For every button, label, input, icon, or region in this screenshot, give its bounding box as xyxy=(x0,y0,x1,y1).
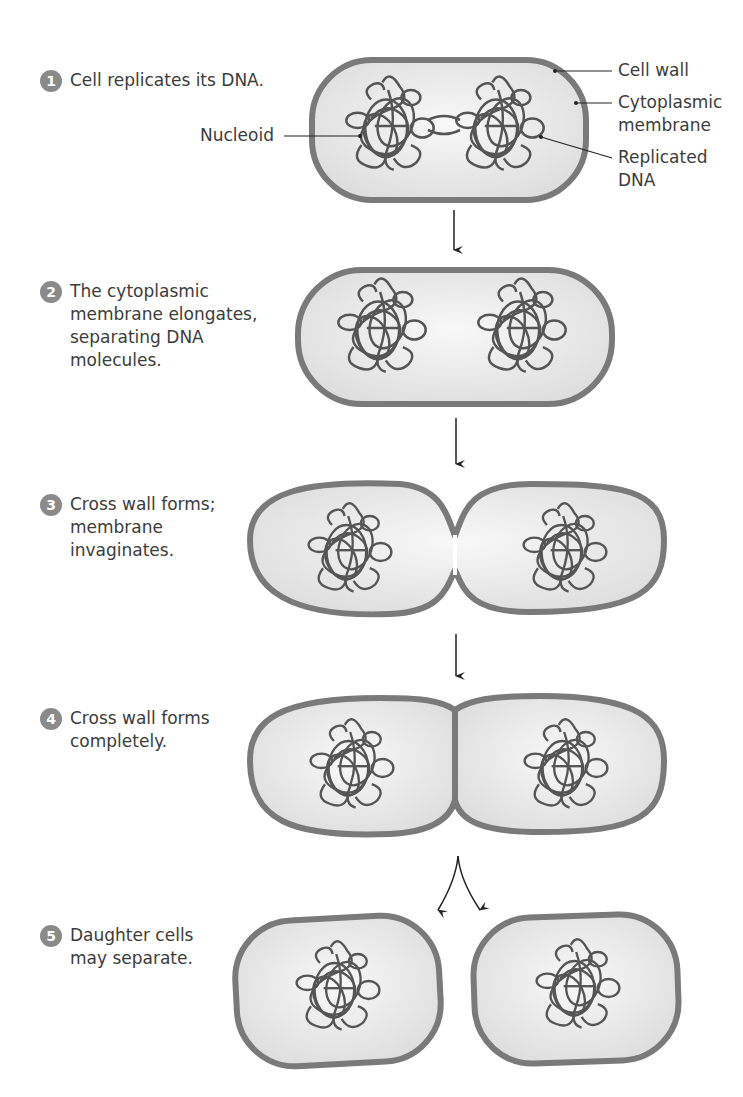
step-4: 4 Cross wall forms completely. xyxy=(40,707,210,753)
step-5: 5 Daughter cells may separate. xyxy=(40,924,193,970)
cell-step-3 xyxy=(250,483,664,614)
step-number-badge: 4 xyxy=(40,708,62,730)
step-description: Cell replicates its DNA. xyxy=(70,69,264,92)
cell-step-4 xyxy=(250,696,664,835)
step-2: 2 The cytoplasmic membrane elongates, se… xyxy=(40,280,257,372)
step-number-badge: 5 xyxy=(40,925,62,947)
label-cell-wall: Cell wall xyxy=(618,59,689,82)
step-description: Daughter cells may separate. xyxy=(70,924,193,970)
label-replicated-dna: Replicated DNA xyxy=(618,146,707,192)
step-description: Cross wall forms; membrane invaginates. xyxy=(70,493,215,562)
step-number-badge: 3 xyxy=(40,494,62,516)
cell-step-5 xyxy=(232,912,680,1069)
label-nucleoid: Nucleoid xyxy=(200,124,274,147)
step-number-badge: 1 xyxy=(40,70,62,92)
step-1: 1 Cell replicates its DNA. xyxy=(40,69,264,92)
label-cytoplasmic-membrane: Cytoplasmic membrane xyxy=(618,91,722,137)
step-number-badge: 2 xyxy=(40,281,62,303)
cell-step-1 xyxy=(284,60,612,200)
arrow-4-5-fork xyxy=(438,856,480,910)
step-description: Cross wall forms completely. xyxy=(70,707,210,753)
step-description: The cytoplasmic membrane elongates, sepa… xyxy=(70,280,257,372)
cell-step-2 xyxy=(298,270,612,404)
step-3: 3 Cross wall forms; membrane invaginates… xyxy=(40,493,215,562)
